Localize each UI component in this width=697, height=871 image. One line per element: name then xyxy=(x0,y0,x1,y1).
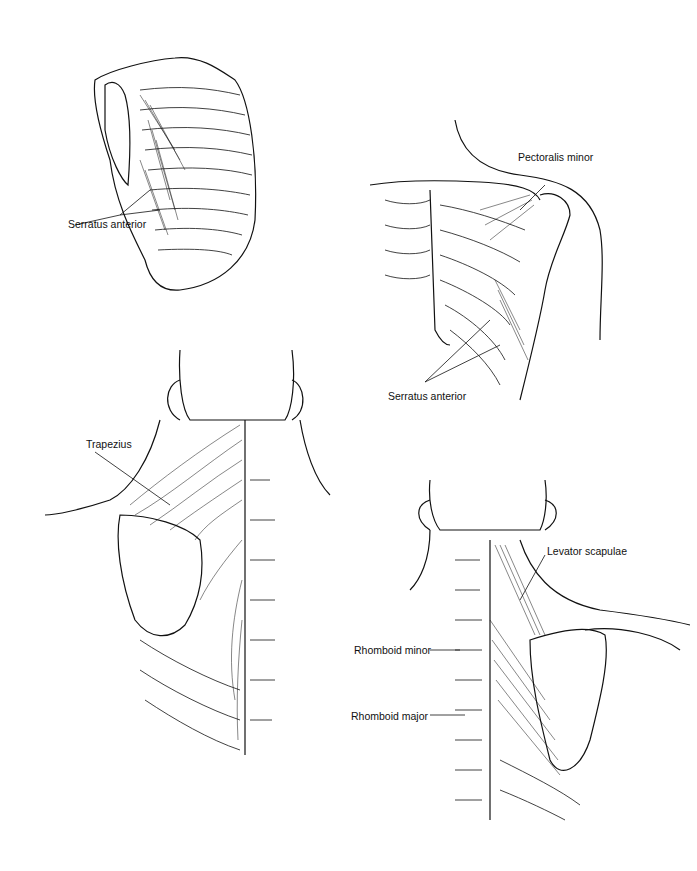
label-rhomboid-minor: Rhomboid minor xyxy=(354,644,431,656)
label-rhomboid-major: Rhomboid major xyxy=(351,710,428,722)
label-serratus-anterior-lateral: Serratus anterior xyxy=(68,218,146,230)
label-trapezius: Trapezius xyxy=(86,438,132,450)
figure-posterior-trapezius xyxy=(45,350,330,755)
label-serratus-anterior-anterior: Serratus anterior xyxy=(388,390,466,402)
anatomy-illustration xyxy=(0,0,697,871)
label-pectoralis-minor: Pectoralis minor xyxy=(518,151,593,163)
label-levator-scapulae: Levator scapulae xyxy=(547,545,627,557)
figure-posterior-rhomboids xyxy=(410,480,690,820)
figure-lateral-thorax xyxy=(75,58,256,291)
